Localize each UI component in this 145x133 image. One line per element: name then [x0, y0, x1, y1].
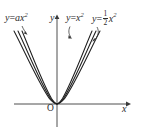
label-right-fraction: 12: [103, 10, 109, 26]
origin-label: O: [47, 104, 54, 114]
curve-label-ax2: y=ax2: [5, 12, 28, 23]
parabolas-figure: y=ax2 y=x2 y=12x2 y x O: [0, 0, 145, 133]
x-axis-arrowhead: [126, 101, 131, 106]
y-axis-arrowhead: [55, 15, 60, 20]
y-axis-label: y: [50, 13, 54, 23]
label-right-exponent: 2: [113, 11, 116, 18]
label-right-equals: =: [96, 13, 102, 24]
fraction-numerator: 1: [103, 10, 109, 18]
curve-label-half-x2: y=12x2: [92, 10, 117, 26]
x-axis-label: x: [122, 104, 126, 114]
leader-line-middle: [69, 27, 71, 38]
label-left-exponent: 2: [25, 11, 28, 18]
curve-label-x2: y=x2: [66, 12, 84, 23]
label-mid-exponent: 2: [81, 11, 84, 18]
fraction-denominator: 2: [103, 18, 109, 27]
leader-arrowhead-left: [24, 31, 28, 35]
